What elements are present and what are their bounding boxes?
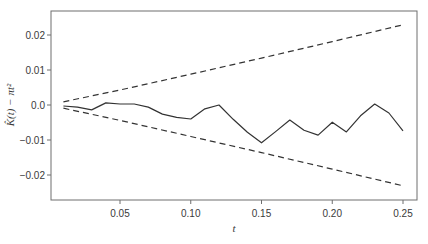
y-tick-label: −0.01 [20,135,46,146]
y-tick-label: 0.0 [31,100,45,111]
plot-frame [51,11,417,200]
x-tick-label: 0.05 [110,208,130,219]
x-tick-label: 0.20 [323,208,343,219]
y-tick-label: 0.02 [26,30,46,41]
x-tick-label: 0.15 [252,208,272,219]
series-layer [63,25,403,186]
y-axis: 0.020.010.0−0.01−0.02 [20,30,51,181]
x-tick-label: 0.25 [393,208,413,219]
x-tick-label: 0.10 [181,208,201,219]
estimate-line [63,103,403,143]
envelope-line [63,25,403,102]
y-tick-label: 0.01 [26,65,46,76]
y-tick-label: −0.02 [20,170,46,181]
x-axis-label: t [232,222,236,234]
y-axis-label: K̂(t) − πt² [4,83,17,127]
chart: 0.020.010.0−0.01−0.02 0.050.100.150.200.… [0,0,428,244]
x-axis: 0.050.100.150.200.25 [110,200,413,219]
